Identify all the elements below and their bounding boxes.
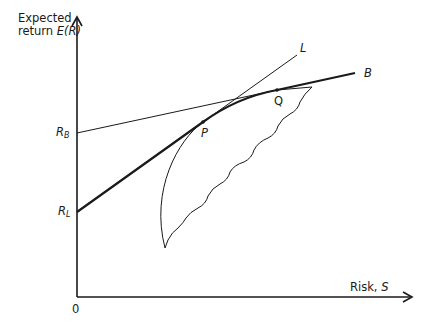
x-axis-label-var: S — [381, 280, 388, 294]
x-axis-label-prefix: Risk, — [350, 280, 381, 294]
point-q-label: Q — [274, 95, 283, 108]
r-b-base: R — [56, 125, 64, 139]
origin-label: 0 — [72, 303, 79, 316]
efficient-frontier — [77, 73, 355, 212]
y-axis-label-prefix: return — [18, 24, 57, 38]
r-l-label: RL — [58, 205, 70, 221]
diagram-canvas — [0, 0, 425, 326]
line-b-label: B — [364, 67, 372, 80]
y-axis-label: Expected return E(R) — [18, 12, 81, 38]
y-axis-label-var: E(R) — [57, 24, 81, 38]
y-axis-label-line2: return E(R) — [18, 25, 81, 38]
point-p — [201, 120, 205, 124]
borrowing-rate-line — [77, 90, 277, 133]
point-q — [275, 88, 279, 92]
r-b-label: RB — [56, 126, 70, 142]
x-axis-label: Risk, S — [350, 281, 388, 294]
point-p-label: P — [201, 127, 208, 140]
r-l-sub: L — [66, 210, 70, 219]
line-l-label: L — [300, 42, 306, 55]
opportunity-set-region — [161, 87, 312, 248]
r-b-sub: B — [64, 131, 70, 140]
r-l-base: R — [58, 204, 66, 218]
